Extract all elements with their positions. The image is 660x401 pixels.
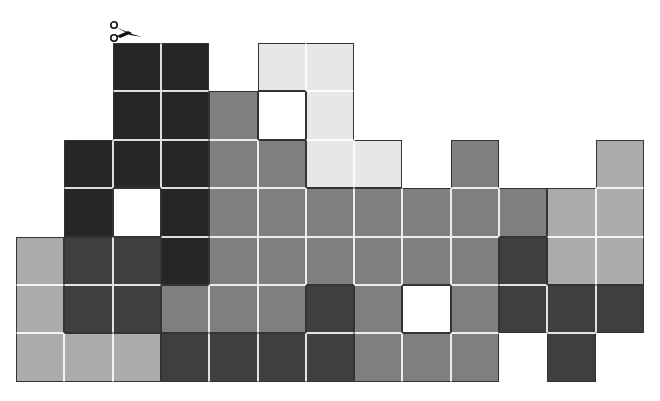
grid-cell[interactable] bbox=[113, 140, 161, 188]
grid-cell[interactable] bbox=[209, 333, 258, 382]
grid-cell[interactable] bbox=[306, 333, 354, 382]
grid-cell[interactable] bbox=[209, 188, 258, 237]
grid-cell[interactable] bbox=[306, 188, 354, 237]
grid-cell[interactable] bbox=[16, 237, 64, 285]
grid-cell[interactable] bbox=[451, 285, 499, 333]
grid-cell[interactable] bbox=[306, 237, 354, 285]
grid-cell[interactable] bbox=[451, 188, 499, 237]
grid-cell[interactable] bbox=[161, 140, 209, 188]
grid-cell[interactable] bbox=[499, 285, 547, 333]
grid-cell[interactable] bbox=[402, 285, 451, 333]
grid-cell[interactable] bbox=[161, 188, 209, 237]
puzzle-board bbox=[0, 0, 660, 401]
scissors-icon[interactable] bbox=[108, 20, 144, 44]
grid-cell[interactable] bbox=[161, 43, 209, 91]
grid-cell[interactable] bbox=[113, 91, 161, 140]
grid-cell[interactable] bbox=[161, 91, 209, 140]
grid-cell[interactable] bbox=[64, 333, 113, 382]
grid-cell[interactable] bbox=[161, 285, 209, 333]
grid-cell[interactable] bbox=[209, 140, 258, 188]
grid-cell[interactable] bbox=[451, 140, 499, 188]
grid-cell[interactable] bbox=[258, 43, 306, 91]
grid-cell[interactable] bbox=[258, 188, 306, 237]
grid-cell[interactable] bbox=[258, 140, 306, 188]
grid-cell[interactable] bbox=[451, 333, 499, 382]
grid-cell[interactable] bbox=[209, 91, 258, 140]
grid-cell[interactable] bbox=[402, 188, 451, 237]
grid-cell[interactable] bbox=[354, 285, 402, 333]
grid-cell[interactable] bbox=[258, 285, 306, 333]
grid-cell[interactable] bbox=[113, 237, 161, 285]
grid-cell[interactable] bbox=[64, 237, 113, 285]
grid-cell[interactable] bbox=[64, 188, 113, 237]
grid-cell[interactable] bbox=[402, 237, 451, 285]
grid-cell[interactable] bbox=[306, 285, 354, 333]
grid-cell[interactable] bbox=[306, 91, 354, 140]
grid-cell[interactable] bbox=[354, 237, 402, 285]
grid-cell[interactable] bbox=[113, 188, 161, 237]
grid-cell[interactable] bbox=[258, 91, 306, 140]
grid-cell[interactable] bbox=[354, 140, 402, 188]
grid-cell[interactable] bbox=[113, 43, 161, 91]
grid-cell[interactable] bbox=[258, 333, 306, 382]
grid-cell[interactable] bbox=[64, 285, 113, 333]
grid-cell[interactable] bbox=[258, 237, 306, 285]
grid-cell[interactable] bbox=[451, 237, 499, 285]
grid-cell[interactable] bbox=[596, 237, 644, 285]
grid-cell[interactable] bbox=[113, 333, 161, 382]
grid-cell[interactable] bbox=[16, 285, 64, 333]
grid-cell[interactable] bbox=[596, 188, 644, 237]
grid-cell[interactable] bbox=[596, 140, 644, 188]
grid-cell[interactable] bbox=[209, 237, 258, 285]
grid-cell[interactable] bbox=[547, 333, 596, 382]
grid-cell[interactable] bbox=[161, 333, 209, 382]
grid-cell[interactable] bbox=[306, 43, 354, 91]
grid-cell[interactable] bbox=[499, 237, 547, 285]
grid-cell[interactable] bbox=[547, 285, 596, 333]
grid-cell[interactable] bbox=[209, 285, 258, 333]
grid-cell[interactable] bbox=[113, 285, 161, 333]
grid-cell[interactable] bbox=[161, 237, 209, 285]
grid-cell[interactable] bbox=[64, 140, 113, 188]
grid-cell[interactable] bbox=[499, 188, 547, 237]
grid-cell[interactable] bbox=[306, 140, 354, 188]
grid-cell[interactable] bbox=[402, 333, 451, 382]
grid-cell[interactable] bbox=[596, 285, 644, 333]
grid-cell[interactable] bbox=[354, 188, 402, 237]
grid-cell[interactable] bbox=[354, 333, 402, 382]
grid-cell[interactable] bbox=[16, 333, 64, 382]
grid-cell[interactable] bbox=[547, 188, 596, 237]
grid-cell[interactable] bbox=[547, 237, 596, 285]
